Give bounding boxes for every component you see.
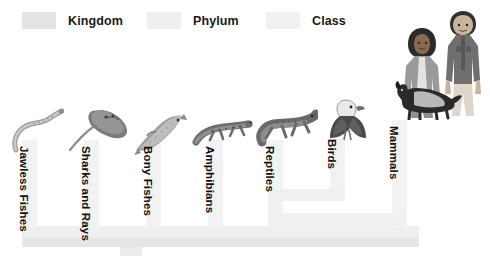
humans-and-dog-illustration [394,8,486,120]
legend-label-class: Class [312,14,346,28]
legend-item-class: Class [266,12,346,29]
kingdom-root-tab [120,247,142,256]
salamander-illustration [192,112,254,154]
clade-label-amphibians: Amphibians [204,146,216,213]
clade-label-jawless-fishes: Jawless Fishes [18,146,30,232]
eagle-illustration [320,94,372,142]
clade-label-bony-fishes: Bony Fishes [142,146,154,216]
clade-reptiles[interactable]: Reptiles [268,142,283,202]
clade-label-reptiles: Reptiles [264,146,276,192]
legend-label-phylum: Phylum [193,14,239,28]
lizard-illustration [252,108,318,152]
legend-item-phylum: Phylum [147,12,239,29]
clade-label-mammals: Mammals [388,126,400,179]
clade-birds[interactable]: Birds [330,135,345,191]
clade-sharks-and-rays[interactable]: Sharks and Rays [84,142,99,228]
legend-swatch-icon [266,12,300,29]
legend-item-kingdom: Kingdom [22,12,123,29]
legend-swatch-icon [22,12,56,29]
clade-jawless-fishes[interactable]: Jawless Fishes [22,142,37,228]
clade-amphibians[interactable]: Amphibians [208,142,223,228]
diagram-canvas: Kingdom Phylum Class [0,0,490,264]
clade-label-sharks-and-rays: Sharks and Rays [80,146,92,241]
clade-mammals[interactable]: Mammals [392,122,407,228]
clade-bony-fishes[interactable]: Bony Fishes [146,142,161,228]
clade-label-birds: Birds [326,139,338,169]
legend-swatch-icon [147,12,181,29]
legend-label-kingdom: Kingdom [68,14,123,28]
amniote-join-bar [268,213,407,226]
